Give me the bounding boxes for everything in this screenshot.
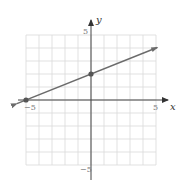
- x-axis-label: x: [170, 101, 176, 112]
- y-tick-label-5: 5: [83, 27, 88, 36]
- coordinate-plane: −5 5 5 −5 x y: [0, 0, 181, 183]
- y-axis-label: y: [95, 14, 102, 25]
- data-point: [88, 71, 93, 76]
- x-tick-label-5: 5: [153, 103, 158, 112]
- data-point: [23, 97, 28, 102]
- y-tick-label-neg5: −5: [80, 165, 92, 174]
- x-tick-label-neg5: −5: [24, 103, 36, 112]
- data-line: [17, 47, 157, 103]
